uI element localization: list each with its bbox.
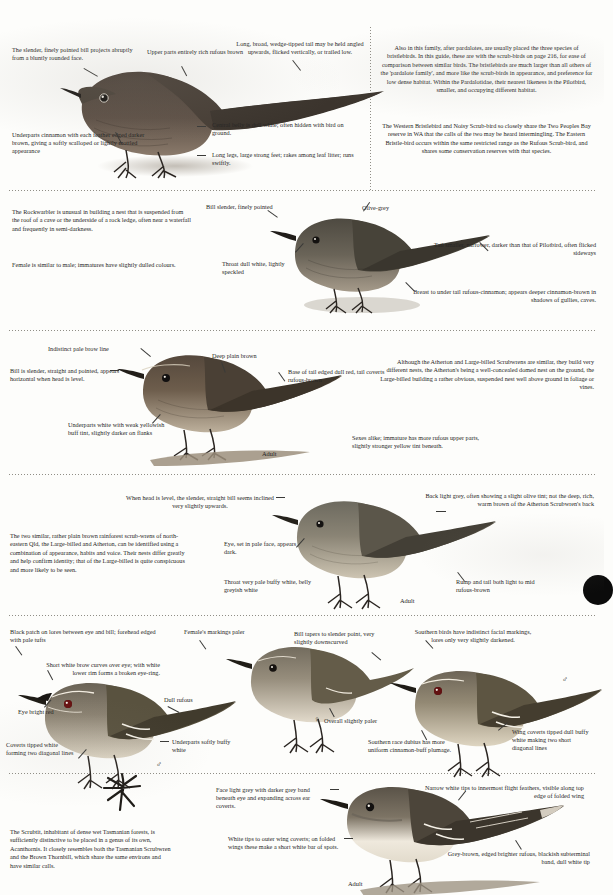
caption-southern-race-dubius: Southern race dubius has more uniform ci… (368, 738, 460, 754)
caption-eye-pale-face: Eye, set in pale face, appears dark. (224, 540, 302, 556)
caption-throat-pale-buffy: Throat very pale buffy white, belly grey… (224, 578, 328, 594)
dash-bill-slender (110, 370, 119, 371)
leader-line-female-paler (199, 640, 206, 650)
caption-underparts-buffy-white: Underparts softly buffy white (172, 738, 244, 754)
caption-female-markings-paler: Female's markings paler (184, 628, 276, 636)
caption-bill-tapers: Bill tapers to slender point, very sligh… (294, 630, 376, 646)
dash-central-belly (197, 126, 206, 127)
section-divider-1 (8, 190, 596, 191)
symbol-female-middle: ♀ (314, 716, 320, 724)
caption-bill-slender-pointed: Bill slender, finely pointed (206, 203, 276, 211)
caption-white-tips-outer-coverts: White tips to outer wing coverts; on fol… (228, 835, 340, 851)
note-western-bristlebird: The Western Bristlebird and Noisy Scrub-… (380, 122, 593, 156)
caption-bill-slender-straight: Bill is slender, straight and pointed, a… (10, 367, 126, 383)
note-two-similar-scrubwrens: The two similar, rather plain brown rain… (10, 532, 194, 574)
caption-wing-coverts-tipped: Wing coverts tipped dull buffy white mak… (512, 728, 594, 753)
caption-southern-birds-facial: Southern birds have indistinct facial ma… (410, 628, 536, 644)
dash-white-tips-coverts (344, 838, 353, 839)
label-adult-scrubtit: Adult (348, 880, 363, 887)
note-scrubtit-genus: The Scrubtit, inhabitant of dense wet Ta… (10, 828, 172, 870)
caption-throat-dull-white: Throat dull white, lightly speckled (222, 260, 306, 276)
dash-long-legs (197, 155, 206, 156)
section-divider-2 (8, 330, 596, 331)
caption-rump-tail-rufous: Rump and tail both light to mid rufous-b… (456, 578, 552, 594)
caption-underparts-white: Underparts white with weak yellowish buf… (68, 421, 168, 437)
caption-back-light-grey: Back light grey, often showing a slight … (424, 492, 594, 508)
caption-tail-smaller: Tail smaller, narrower, darker than that… (418, 241, 596, 257)
note-sexes-alike-atherton: Sexes alike; immature has more rufous up… (352, 434, 492, 451)
section-divider-3 (8, 474, 596, 475)
caption-narrow-white-tips: Narrow white tips to innermost flight fe… (420, 784, 584, 800)
symbol-male-right: ♂ (562, 676, 568, 684)
caption-dull-rufous: Dull rufous (164, 696, 224, 704)
note-rockwarbler-nest: The Rockwarbler is unusual in building a… (12, 208, 192, 233)
dash-underparts-buffy (160, 741, 169, 742)
caption-coverts-tipped-white: Coverts tipped white forming two diagona… (6, 741, 76, 757)
caption-indistinct-brow-line: Indistinct pale brow line (48, 345, 140, 353)
caption-wedge-tipped-tail: Long, broad, wedge-tipped tail may be he… (236, 40, 364, 56)
caption-upper-parts-rufous: Upper parts entirely rich rufous brown (140, 48, 250, 56)
note-atherton-vs-largebilled-nests: Although the Atherton and Large-billed S… (376, 358, 594, 392)
caption-short-white-brow: Short white brow curves over eye; with w… (38, 661, 160, 677)
caption-breast-rufous-cinnamon: Breast to under tail rufous-cinnamon; ap… (398, 288, 596, 304)
dash-back-light-grey (436, 511, 446, 512)
caption-grey-brown-tail: Grey-brown, edged brighter rufous, black… (434, 850, 590, 866)
caption-deep-plain-brown: Deep plain brown (212, 352, 286, 360)
note-bristlebirds-family: Also in this family, after pardalotes, a… (380, 44, 593, 94)
caption-bill-projects: The slender, finely pointed bill project… (12, 46, 140, 62)
caption-black-patch-lores: Black patch on lores between eye and bil… (10, 628, 168, 644)
leader-line-black-patch (15, 646, 22, 656)
caption-underparts-cinnamon: Underparts cinnamon with each feather ed… (12, 131, 146, 156)
label-adult-large-billed: Adult (400, 597, 415, 604)
label-adult-atherton: Adult (262, 450, 277, 457)
dash-head-level-bill (276, 497, 285, 498)
caption-eye-bright-red: Eye bright red (18, 708, 68, 716)
section-divider-4 (8, 615, 596, 616)
page-edge-marker (583, 575, 613, 605)
bird-illustration-foot-detail (100, 772, 146, 814)
caption-central-belly: Central belly is dull white; often hidde… (212, 121, 364, 137)
symbol-male-left: ♂ (156, 761, 162, 769)
note-rockwarbler-female: Female is similar to male; immatures hav… (12, 261, 192, 269)
bird-illustration-atherton-scrubwren (110, 342, 346, 468)
caption-long-legs: Long legs, large strong feet; rakes amon… (212, 151, 364, 167)
bird-illustration-redthroat-male-right (390, 660, 604, 778)
caption-face-light-grey: Face light grey with darker grey band be… (216, 786, 328, 811)
caption-head-level-bill: When head is level, the slender, straigh… (126, 494, 274, 510)
caption-olive-grey: Olive-grey (362, 204, 422, 212)
dash-face-light-grey (330, 789, 339, 790)
caption-overall-slightly-paler: Overall slightly paler (324, 717, 408, 725)
